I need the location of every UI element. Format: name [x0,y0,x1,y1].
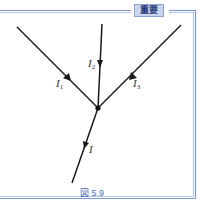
label-i2: I2 [88,58,95,73]
important-badge: 重要 [134,4,164,17]
figure-caption: 図 5.9 [80,188,104,198]
label-i3: I3 [133,78,140,93]
junction-node [95,105,100,110]
branch-i3-wire [98,25,181,108]
branch-i1-wire [17,27,98,108]
label-i: I [89,144,93,155]
arrow-i2-icon [97,60,103,68]
figure-frame [0,0,202,219]
label-i1: I1 [56,78,63,93]
